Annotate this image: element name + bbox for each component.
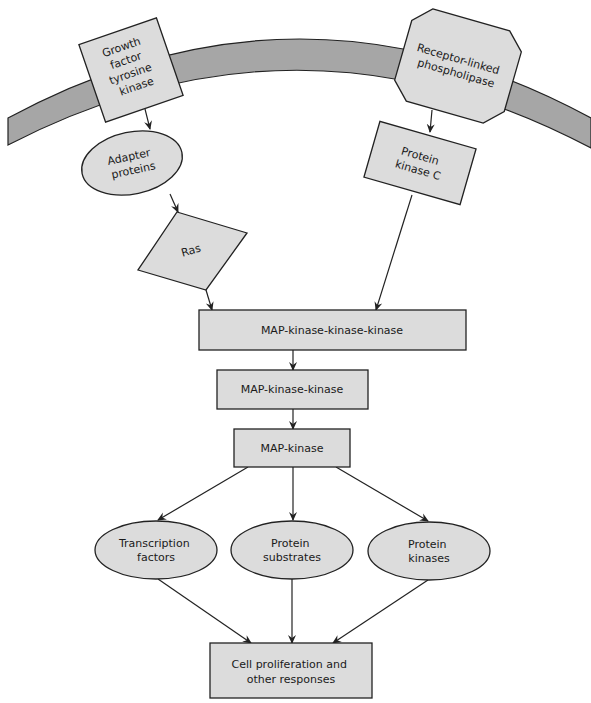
node-protein-substrates: Protein substrates — [231, 521, 353, 579]
node-map-kinase: MAP-kinase — [234, 429, 350, 467]
arrow-plipase-to-pkc — [430, 110, 432, 132]
arrow-pkc-to-mapkkk — [376, 195, 412, 310]
node-label-line: substrates — [263, 551, 321, 564]
node-protein-kinase-c: Protein kinase C — [364, 121, 476, 204]
node-label-line: other responses — [247, 673, 336, 686]
node-transcription-factors: Transcription factors — [95, 521, 217, 579]
node-map-kinase-kinase-kinase: MAP-kinase-kinase-kinase — [199, 310, 466, 350]
node-label-line: kinases — [408, 552, 450, 565]
node-label-line: factors — [137, 551, 175, 564]
node-ras: Ras — [138, 212, 247, 290]
arrow-mapk-to-tf — [158, 467, 248, 520]
node-label-line: Protein — [408, 538, 447, 551]
arrow-tf-to-cell — [158, 579, 251, 643]
node-map-kinase-kinase: MAP-kinase-kinase — [217, 370, 368, 409]
arrow-gftk-to-adapter — [145, 109, 150, 129]
node-label: MAP-kinase-kinase-kinase — [261, 324, 403, 337]
arrow-ras-to-mapkkk — [206, 290, 212, 310]
pathway-diagram: Growth factor tyrosine kinase Receptor-l… — [0, 0, 591, 703]
node-label: MAP-kinase — [260, 442, 323, 455]
arrow-pk-to-cell — [333, 580, 428, 643]
node-adapter-proteins: Adapter proteins — [76, 122, 189, 204]
node-protein-kinases: Protein kinases — [368, 522, 490, 580]
arrow-adapter-to-ras — [170, 194, 178, 212]
arrow-mapk-to-pk — [336, 467, 428, 521]
node-label-line: Transcription — [118, 537, 190, 550]
node-label-line: Protein — [271, 537, 310, 550]
node-cell-proliferation: Cell proliferation and other responses — [210, 643, 372, 698]
node-label-line: Cell proliferation and — [232, 658, 347, 671]
node-label: MAP-kinase-kinase — [241, 383, 344, 396]
svg-text:Protein kinases: Protein kinases — [408, 538, 450, 565]
svg-text:Protein substrates: Protein substrates — [263, 537, 321, 564]
